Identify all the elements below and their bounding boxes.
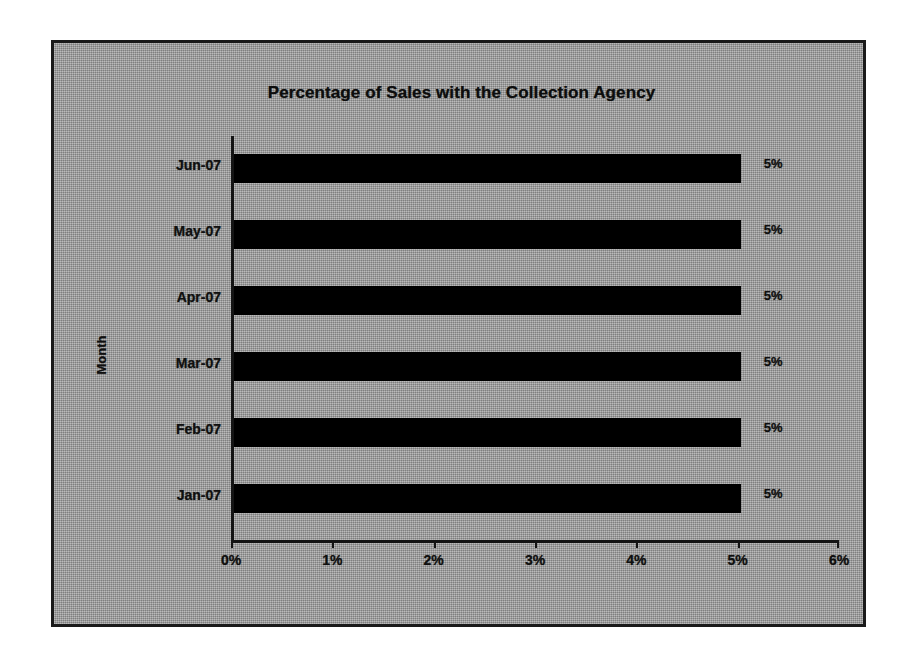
x-axis-tick <box>231 540 233 548</box>
y-axis-tick-label: Jan-07 <box>177 487 221 503</box>
bar[interactable] <box>234 220 741 249</box>
x-axis-tick-label: 0% <box>201 552 261 568</box>
x-axis-tick-label: 3% <box>505 552 565 568</box>
bar-value-label: 5% <box>764 486 783 501</box>
y-axis-tick-label: Feb-07 <box>176 421 221 437</box>
bar-value-label: 5% <box>764 354 783 369</box>
chart-frame: Percentage of Sales with the Collection … <box>51 40 866 627</box>
x-axis-tick-label: 5% <box>708 552 768 568</box>
x-axis-tick-label: 2% <box>404 552 464 568</box>
y-axis-tick-label: May-07 <box>174 223 221 239</box>
x-axis-tick <box>738 540 740 548</box>
bar[interactable] <box>234 418 741 447</box>
y-axis-tick-label: Jun-07 <box>176 157 221 173</box>
bar[interactable] <box>234 154 741 183</box>
bar-row: May-07 5% <box>234 202 839 267</box>
x-axis-tick <box>434 540 436 548</box>
x-axis-tick-label: 6% <box>809 552 866 568</box>
bar[interactable] <box>234 352 741 381</box>
bar-row: Apr-07 5% <box>234 268 839 333</box>
chart-title: Percentage of Sales with the Collection … <box>54 83 866 103</box>
bar-value-label: 5% <box>764 288 783 303</box>
bar-row: Mar-07 5% <box>234 334 839 399</box>
x-axis-tick <box>535 540 537 548</box>
x-axis-tick-label: 4% <box>606 552 666 568</box>
y-axis-tick-label: Apr-07 <box>177 289 221 305</box>
y-axis-tick-label: Mar-07 <box>176 355 221 371</box>
plot-area: Jun-07 5% May-07 5% Apr-07 5% Mar-07 5% <box>231 136 839 543</box>
bar-row: Jan-07 5% <box>234 466 839 531</box>
bar[interactable] <box>234 484 741 513</box>
y-axis-title: Month <box>94 300 109 410</box>
bar-value-label: 5% <box>764 222 783 237</box>
bar-value-label: 5% <box>764 156 783 171</box>
x-axis-tick <box>837 540 839 548</box>
bar-value-label: 5% <box>764 420 783 435</box>
x-axis-tick-label: 1% <box>302 552 362 568</box>
bar-row: Feb-07 5% <box>234 400 839 465</box>
x-axis-tick <box>332 540 334 548</box>
bar-row: Jun-07 5% <box>234 136 839 201</box>
bar[interactable] <box>234 286 741 315</box>
x-axis-tick <box>636 540 638 548</box>
page-canvas: Percentage of Sales with the Collection … <box>0 0 911 665</box>
